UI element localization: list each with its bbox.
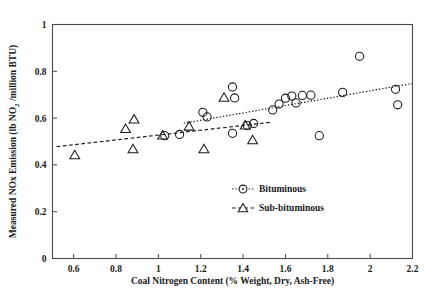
x-tick-label: 1 [156, 264, 161, 274]
legend-marker-dot [242, 188, 244, 190]
data-point-sub-bituminous [184, 122, 194, 130]
x-tick-label: 1.2 [195, 264, 207, 274]
x-tick-label: 1.8 [322, 264, 334, 274]
y-tick-label: 0.2 [35, 207, 47, 217]
legend-label-0: Bituminous [259, 184, 306, 194]
data-point-bituminous [175, 130, 183, 138]
x-tick-label: 1.6 [280, 264, 292, 274]
data-point-sub-bituminous [219, 93, 229, 101]
scatter-plot: 0.60.811.21.41.61.822.200.20.40.60.81Coa… [0, 0, 435, 302]
legend-label-1: Sub-bituminous [259, 203, 324, 213]
data-point-bituminous [228, 83, 236, 91]
y-axis-title: Measured NOx Emission (lb NO2 /million B… [8, 45, 21, 238]
data-point-bituminous [355, 52, 363, 60]
data-point-sub-bituminous [70, 150, 80, 158]
data-point-sub-bituminous [128, 144, 138, 152]
y-tick-label: 0.8 [35, 67, 47, 77]
trendline-sub-bituminous [57, 122, 271, 146]
y-tick-label: 0.6 [35, 114, 47, 124]
x-tick-label: 2 [368, 264, 373, 274]
data-point-bituminous [298, 91, 306, 99]
x-tick-label: 2.2 [407, 264, 419, 274]
data-point-bituminous [315, 132, 323, 140]
x-tick-label: 0.6 [68, 264, 80, 274]
y-tick-label: 0.4 [35, 160, 47, 170]
data-point-sub-bituminous [199, 144, 209, 152]
x-axis-title: Coal Nitrogen Content (% Weight, Dry, As… [131, 276, 334, 287]
y-tick-label: 0 [42, 254, 47, 264]
x-tick-label: 0.8 [110, 264, 122, 274]
trendline-bituminous [184, 83, 413, 123]
data-point-bituminous [231, 94, 239, 102]
data-point-bituminous [307, 91, 315, 99]
x-tick-label: 1.4 [237, 264, 249, 274]
chart-figure: 0.60.811.21.41.61.822.200.20.40.60.81Coa… [0, 0, 435, 302]
data-point-sub-bituminous [121, 124, 131, 132]
data-point-sub-bituminous [248, 135, 258, 143]
data-point-bituminous [228, 129, 236, 137]
data-point-sub-bituminous [129, 115, 139, 123]
data-point-bituminous [339, 88, 347, 96]
y-tick-label: 1 [42, 20, 47, 30]
data-point-bituminous [394, 101, 402, 109]
